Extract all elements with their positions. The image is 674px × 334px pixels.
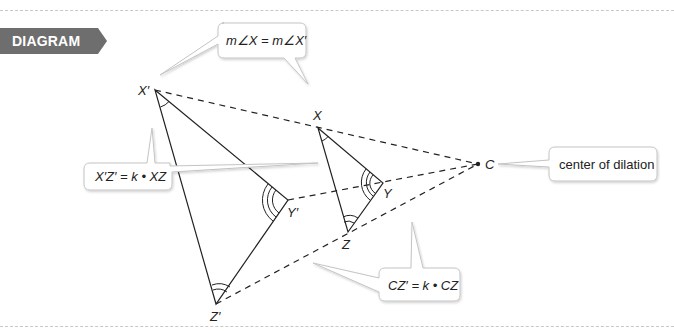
callout-distance-scale-text: CZ′ = k • CZ: [388, 278, 459, 293]
label-y-prime: Y′: [287, 205, 299, 220]
dilation-diagram: X′ Y′ Z′ X Y Z C m∠X = m∠X′ X′Z′ = k • X…: [0, 0, 674, 334]
label-z: Z: [341, 237, 351, 252]
callout-angle-equal-text: m∠X = m∠X′: [226, 33, 307, 48]
label-c: C: [485, 157, 495, 172]
label-y: Y: [383, 186, 393, 201]
callout-side-scale-text: X′Z′ = k • XZ: [94, 169, 167, 184]
callout-center-text: center of dilation: [559, 157, 654, 172]
angle-marks: [161, 102, 376, 293]
center-point: [476, 162, 480, 166]
preimage-triangle: [318, 128, 383, 232]
label-x: X: [312, 108, 323, 123]
label-x-prime: X′: [137, 83, 150, 98]
label-z-prime: Z′: [209, 309, 221, 324]
